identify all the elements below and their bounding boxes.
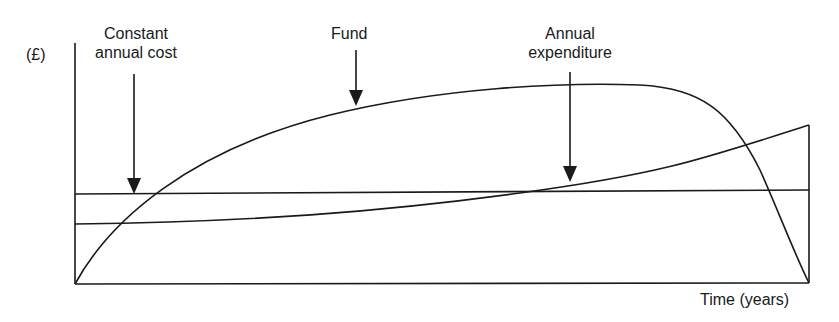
arrow-constant-annual-cost (127, 74, 141, 194)
constant-label-line1: Constant (84, 24, 188, 43)
arrow-fund (349, 50, 363, 106)
annual-expenditure-label: Annual expenditure (515, 24, 625, 62)
x-axis-label: Time (years) (700, 290, 789, 309)
constant-annual-cost-label: Constant annual cost (84, 24, 188, 62)
annual-label-line1: Annual (515, 24, 625, 43)
annual-label-line2: expenditure (515, 43, 625, 62)
arrow-annual-expenditure (563, 72, 577, 182)
constant-annual-cost-line (75, 190, 809, 194)
fund-curve (75, 84, 809, 284)
y-axis-label: (£) (26, 45, 46, 64)
x-axis (75, 283, 809, 284)
fund-label: Fund (331, 24, 367, 43)
constant-label-line2: annual cost (84, 43, 188, 62)
